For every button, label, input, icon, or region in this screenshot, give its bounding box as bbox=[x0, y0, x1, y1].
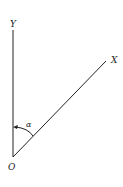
x-axis-label: X bbox=[110, 55, 118, 65]
arrowhead-icon bbox=[13, 125, 18, 129]
y-axis-label: Y bbox=[10, 19, 17, 29]
angle-label: α bbox=[26, 120, 32, 129]
angle-diagram: Y X O α bbox=[0, 0, 123, 187]
origin-label: O bbox=[8, 162, 16, 172]
x-axis-line bbox=[13, 61, 106, 157]
